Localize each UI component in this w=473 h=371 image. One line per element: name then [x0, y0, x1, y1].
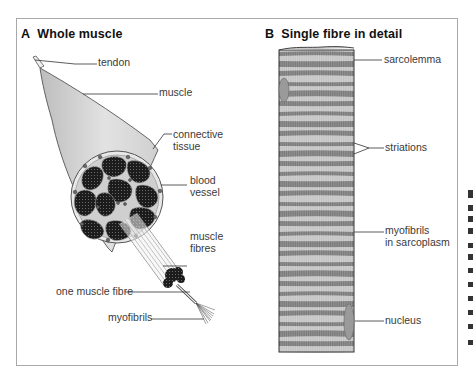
fibre-detail: [279, 47, 354, 353]
myofibrils-splay: [196, 303, 215, 324]
nucleus-top: [279, 78, 289, 102]
label-myofibrils-sarcoplasm-2: in sarcoplasm: [385, 236, 450, 249]
label-nucleus: nucleus: [385, 314, 421, 327]
panel-b-leader-lines: [354, 60, 384, 321]
nucleus-bottom: [344, 304, 354, 340]
label-striations: striations: [385, 141, 427, 154]
label-muscle: muscle: [159, 86, 192, 99]
one-muscle-fibre-cluster: [163, 267, 196, 303]
label-one-muscle-fibre: one muscle fibre: [56, 285, 133, 298]
label-muscle-fibres-2: fibres: [190, 242, 216, 255]
label-sarcolemma: sarcolemma: [384, 53, 441, 66]
label-tendon: tendon: [98, 56, 130, 69]
label-blood-vessel-2: vessel: [190, 186, 220, 199]
label-myofibrils: myofibrils: [108, 311, 152, 324]
label-connective-tissue-2: tissue: [173, 140, 200, 153]
tendon-shape: [33, 56, 44, 68]
